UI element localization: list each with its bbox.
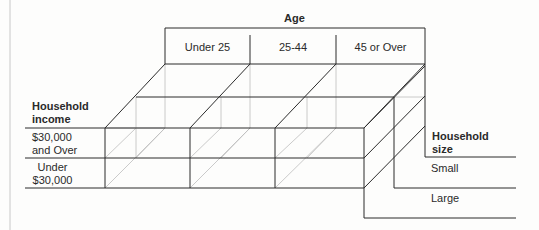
size-heading: Household size bbox=[432, 130, 489, 156]
income-row-low: Under $30,000 bbox=[30, 161, 75, 187]
income-heading: Household income bbox=[32, 100, 89, 126]
age-45-over: 45 or Over bbox=[336, 41, 425, 54]
age-title: Age bbox=[284, 12, 305, 25]
income-row-high: $30,000 and Over bbox=[32, 131, 77, 157]
visible-lines bbox=[25, 28, 516, 218]
hidden-lines bbox=[105, 64, 424, 188]
age-under-25: Under 25 bbox=[165, 41, 250, 54]
size-large: Large bbox=[431, 192, 459, 205]
age-25-44: 25-44 bbox=[250, 41, 336, 54]
size-small: Small bbox=[431, 162, 459, 175]
